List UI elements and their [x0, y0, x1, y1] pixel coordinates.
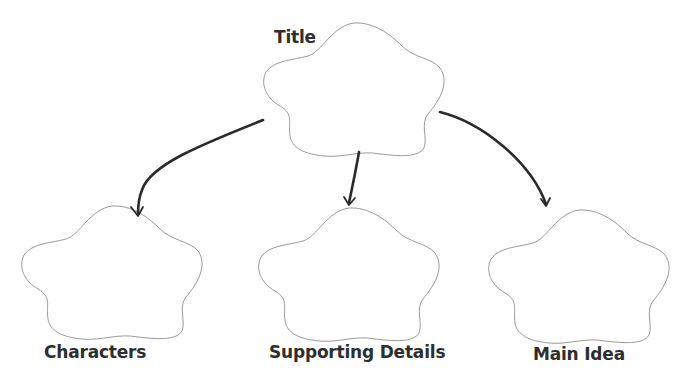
diagram-canvas: Title Characters Supporting Details Main…: [0, 0, 686, 384]
diagram-svg: [0, 0, 686, 384]
supporting-details-label: Supporting Details: [269, 342, 445, 362]
main-idea-flower-shape: [489, 210, 669, 343]
supporting-details-flower-shape: [259, 208, 439, 341]
arrow-title-to-supporting-details: [344, 152, 359, 205]
title-label: Title: [274, 27, 316, 47]
supporting-details-node: [259, 208, 439, 341]
arrow-line: [138, 120, 263, 214]
characters-label: Characters: [44, 342, 146, 362]
arrow-line: [440, 112, 546, 204]
main-idea-node: [489, 210, 669, 343]
characters-node: [22, 206, 202, 339]
characters-flower-shape: [22, 206, 202, 339]
arrow-title-to-main-idea: [440, 112, 550, 206]
arrow-title-to-characters: [131, 120, 263, 216]
main-idea-label: Main Idea: [533, 344, 625, 364]
arrow-line: [349, 152, 359, 203]
